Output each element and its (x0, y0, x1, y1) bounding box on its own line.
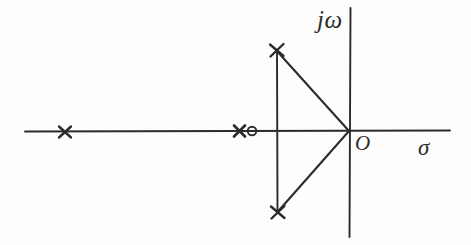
imaginary-axis-label: jω (317, 7, 343, 32)
imaginary-axis-line (350, 8, 351, 237)
construction-line-lower-to-origin (278, 131, 350, 212)
pole-zero-figure: jω O σ (0, 0, 471, 245)
construction-line-upper-to-origin (276, 50, 349, 131)
construction-line-vertical-chord (277, 50, 278, 212)
s-plane-plot (0, 0, 471, 245)
origin-label: O (355, 133, 370, 154)
real-axis-label: σ (418, 136, 429, 159)
